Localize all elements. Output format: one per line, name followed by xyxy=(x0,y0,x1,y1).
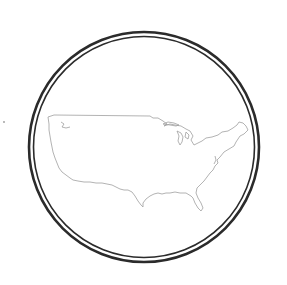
outer-ring xyxy=(29,32,259,262)
inner-ring xyxy=(34,37,255,258)
chesapeake-bay xyxy=(214,156,216,164)
lake-huron xyxy=(185,132,189,139)
emblem-canvas xyxy=(0,0,287,285)
stray-dot xyxy=(3,121,5,123)
double-ring xyxy=(29,32,259,262)
us-outline xyxy=(48,115,248,211)
lake-michigan xyxy=(177,131,183,145)
us-map-icon xyxy=(48,115,248,211)
puget-sound xyxy=(61,122,70,128)
